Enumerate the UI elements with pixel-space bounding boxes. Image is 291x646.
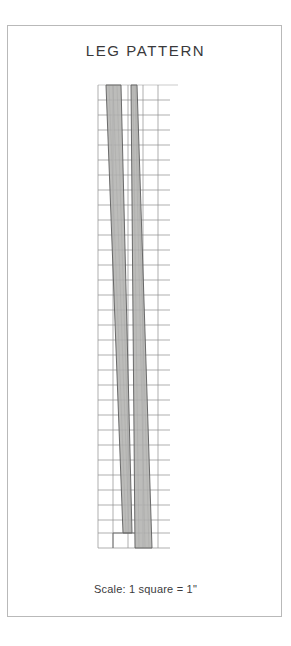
leg-pattern-svg: [0, 72, 291, 562]
page-title: LEG PATTERN: [0, 42, 291, 59]
leg-foot-step: [113, 533, 135, 548]
pattern-page: LEG PATTERN: [0, 0, 291, 646]
leg-piece-right: [131, 85, 152, 548]
scale-caption: Scale: 1 square = 1": [0, 583, 291, 595]
leg-piece-right-outline: [131, 85, 152, 548]
leg-pattern-figure: [0, 72, 291, 562]
